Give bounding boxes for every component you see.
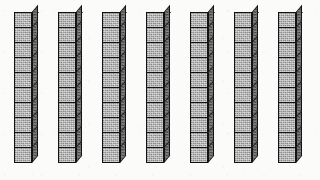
unit-cube <box>58 117 76 133</box>
unit-cube <box>278 72 296 88</box>
cube-front-face <box>102 57 120 73</box>
cube-front-face <box>102 132 120 148</box>
cube-front-face <box>58 132 76 148</box>
unit-cube <box>102 102 120 118</box>
cube-front-face <box>14 147 32 163</box>
unit-cube <box>234 42 252 58</box>
cube-front-face <box>58 102 76 118</box>
cube-front-face <box>146 132 164 148</box>
cube-front-face <box>278 147 296 163</box>
unit-cube <box>146 87 164 103</box>
cube-front-face <box>278 42 296 58</box>
unit-cube <box>14 132 32 148</box>
cube-front-face <box>146 57 164 73</box>
cube-front-face <box>234 117 252 133</box>
unit-cube <box>146 42 164 58</box>
cube-front-face <box>58 42 76 58</box>
unit-cube <box>14 87 32 103</box>
unit-cube <box>234 57 252 73</box>
unit-cube <box>190 102 208 118</box>
unit-cube <box>190 27 208 43</box>
unit-cube <box>190 87 208 103</box>
cube-front-face <box>102 27 120 43</box>
cube-front-face <box>234 42 252 58</box>
unit-cube <box>278 12 296 28</box>
unit-cube <box>234 102 252 118</box>
unit-cube <box>102 57 120 73</box>
unit-cube <box>278 57 296 73</box>
tens-rod-2 <box>58 0 84 180</box>
unit-cube <box>278 42 296 58</box>
cube-front-face <box>102 12 120 28</box>
unit-cube <box>190 57 208 73</box>
unit-cube <box>278 132 296 148</box>
cube-front-face <box>234 57 252 73</box>
unit-cube <box>234 132 252 148</box>
unit-cube <box>14 102 32 118</box>
cube-front-face <box>190 87 208 103</box>
cube-front-face <box>146 87 164 103</box>
cube-front-face <box>146 12 164 28</box>
unit-cube <box>190 12 208 28</box>
cube-front-face <box>102 87 120 103</box>
unit-cube <box>146 147 164 163</box>
cube-front-face <box>58 57 76 73</box>
unit-cube <box>102 27 120 43</box>
unit-cube <box>278 102 296 118</box>
cube-front-face <box>234 132 252 148</box>
unit-cube <box>146 132 164 148</box>
cube-front-face <box>58 87 76 103</box>
cube-front-face <box>234 12 252 28</box>
unit-cube <box>14 12 32 28</box>
unit-cube <box>190 42 208 58</box>
unit-cube <box>146 102 164 118</box>
unit-cube <box>190 72 208 88</box>
cube-front-face <box>190 117 208 133</box>
cube-front-face <box>58 27 76 43</box>
cube-front-face <box>14 102 32 118</box>
unit-cube <box>190 117 208 133</box>
cube-front-face <box>190 132 208 148</box>
cube-front-face <box>278 117 296 133</box>
cube-front-face <box>14 27 32 43</box>
unit-cube <box>14 72 32 88</box>
cube-front-face <box>190 12 208 28</box>
cube-front-face <box>190 57 208 73</box>
cube-front-face <box>102 117 120 133</box>
unit-cube <box>58 147 76 163</box>
unit-cube <box>190 147 208 163</box>
unit-cube <box>58 12 76 28</box>
cube-front-face <box>278 12 296 28</box>
unit-cube <box>102 132 120 148</box>
cube-front-face <box>234 72 252 88</box>
cube-front-face <box>278 87 296 103</box>
cube-front-face <box>146 147 164 163</box>
unit-cube <box>278 27 296 43</box>
unit-cube <box>58 72 76 88</box>
unit-cube <box>102 87 120 103</box>
cube-front-face <box>278 72 296 88</box>
unit-cube <box>278 147 296 163</box>
unit-cube <box>102 117 120 133</box>
cube-front-face <box>234 87 252 103</box>
cube-front-face <box>14 42 32 58</box>
unit-cube <box>58 87 76 103</box>
unit-cube <box>234 117 252 133</box>
cube-front-face <box>190 42 208 58</box>
cube-front-face <box>146 117 164 133</box>
unit-cube <box>102 42 120 58</box>
unit-cube <box>146 72 164 88</box>
unit-cube <box>14 147 32 163</box>
cube-front-face <box>278 27 296 43</box>
unit-cube <box>234 72 252 88</box>
cube-front-face <box>234 147 252 163</box>
tens-rod-4 <box>146 0 172 180</box>
cube-front-face <box>58 117 76 133</box>
unit-cube <box>146 117 164 133</box>
cube-front-face <box>14 87 32 103</box>
unit-cube <box>234 147 252 163</box>
cube-front-face <box>146 72 164 88</box>
cube-front-face <box>190 72 208 88</box>
cube-front-face <box>102 42 120 58</box>
tens-rod-6 <box>234 0 260 180</box>
